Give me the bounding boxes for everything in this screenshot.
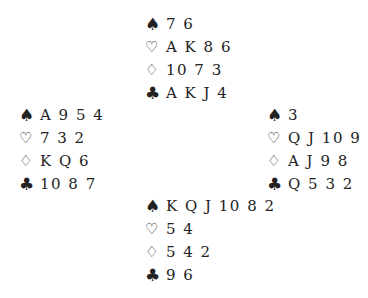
south-hearts: ♡ 5 4 [145, 218, 276, 241]
heart-icon: ♡ [145, 36, 163, 59]
south-clubs-cards: 9 6 [166, 264, 194, 287]
south-diamonds-cards: 5 4 2 [166, 241, 212, 264]
north-hearts-cards: A K 8 6 [166, 36, 232, 59]
north-hearts: ♡ A K 8 6 [145, 36, 232, 59]
west-spades-cards: A 9 5 4 [40, 104, 104, 127]
south-hearts-cards: 5 4 [166, 218, 194, 241]
diamond-icon: ♢ [145, 241, 163, 264]
spade-icon: ♠ [267, 104, 285, 127]
club-icon: ♣ [19, 173, 37, 196]
south-spades-cards: K Q J 10 8 2 [166, 195, 276, 218]
diamond-icon: ♢ [267, 150, 285, 173]
west-diamonds: ♢ K Q 6 [19, 150, 104, 173]
south-diamonds: ♢ 5 4 2 [145, 241, 276, 264]
north-spades: ♠ 7 6 [145, 13, 232, 36]
east-spades: ♠ 3 [267, 104, 361, 127]
east-hearts-cards: Q J 10 9 [288, 127, 361, 150]
north-clubs: ♣ A K J 4 [145, 82, 232, 105]
south-clubs: ♣ 9 6 [145, 264, 276, 287]
diamond-icon: ♢ [19, 150, 37, 173]
west-clubs: ♣ 10 8 7 [19, 173, 104, 196]
east-spades-cards: 3 [288, 104, 299, 127]
spade-icon: ♠ [145, 195, 163, 218]
heart-icon: ♡ [19, 127, 37, 150]
club-icon: ♣ [145, 82, 163, 105]
south-spades: ♠ K Q J 10 8 2 [145, 195, 276, 218]
east-clubs-cards: Q 5 3 2 [288, 173, 354, 196]
spade-icon: ♠ [145, 13, 163, 36]
south-hand: ♠ K Q J 10 8 2 ♡ 5 4 ♢ 5 4 2 ♣ 9 6 [145, 195, 276, 287]
west-hand: ♠ A 9 5 4 ♡ 7 3 2 ♢ K Q 6 ♣ 10 8 7 [19, 104, 104, 196]
west-hearts-cards: 7 3 2 [40, 127, 86, 150]
heart-icon: ♡ [267, 127, 285, 150]
west-clubs-cards: 10 8 7 [40, 173, 97, 196]
north-clubs-cards: A K J 4 [166, 82, 228, 105]
club-icon: ♣ [145, 264, 163, 287]
north-diamonds: ♢ 10 7 3 [145, 59, 232, 82]
north-spades-cards: 7 6 [166, 13, 194, 36]
diamond-icon: ♢ [145, 59, 163, 82]
east-diamonds-cards: A J 9 8 [288, 150, 349, 173]
east-diamonds: ♢ A J 9 8 [267, 150, 361, 173]
club-icon: ♣ [267, 173, 285, 196]
east-hearts: ♡ Q J 10 9 [267, 127, 361, 150]
spade-icon: ♠ [19, 104, 37, 127]
west-spades: ♠ A 9 5 4 [19, 104, 104, 127]
heart-icon: ♡ [145, 218, 163, 241]
west-hearts: ♡ 7 3 2 [19, 127, 104, 150]
west-diamonds-cards: K Q 6 [40, 150, 90, 173]
east-hand: ♠ 3 ♡ Q J 10 9 ♢ A J 9 8 ♣ Q 5 3 2 [267, 104, 361, 196]
north-hand: ♠ 7 6 ♡ A K 8 6 ♢ 10 7 3 ♣ A K J 4 [145, 13, 232, 105]
east-clubs: ♣ Q 5 3 2 [267, 173, 361, 196]
north-diamonds-cards: 10 7 3 [166, 59, 223, 82]
